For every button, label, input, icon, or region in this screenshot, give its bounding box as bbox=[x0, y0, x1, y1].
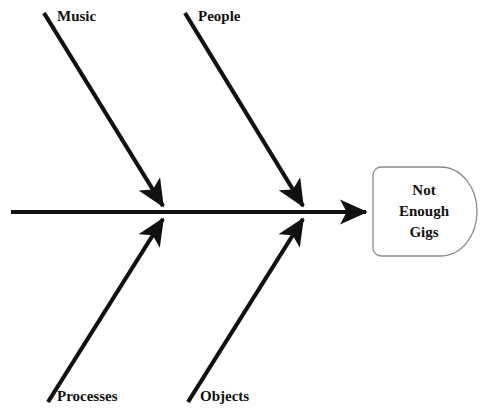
rib-processes bbox=[48, 219, 163, 402]
rib-people bbox=[185, 13, 303, 206]
effect-line-2: Enough bbox=[378, 201, 470, 222]
rib-music bbox=[44, 13, 163, 206]
effect-line-3: Gigs bbox=[378, 222, 470, 243]
effect-statement: Not Enough Gigs bbox=[378, 180, 470, 243]
fishbone-diagram-canvas: Music People Processes Objects Not Enoug… bbox=[0, 0, 486, 413]
category-label-people: People bbox=[198, 9, 241, 24]
effect-line-1: Not bbox=[378, 180, 470, 201]
category-label-music: Music bbox=[57, 9, 96, 24]
rib-objects bbox=[188, 219, 303, 402]
category-label-objects: Objects bbox=[200, 389, 249, 404]
category-label-processes: Processes bbox=[57, 389, 118, 404]
